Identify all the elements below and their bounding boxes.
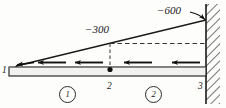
engineering-diagram: −300 −600 1 2 3 1 2	[0, 0, 226, 108]
node-2-dot	[107, 67, 112, 72]
element-2-label: 2	[145, 86, 162, 103]
diagram-canvas	[0, 0, 226, 108]
load-arrow-tip-node1	[17, 63, 34, 65]
load-wall-leader-line	[190, 12, 205, 20]
node-1-label: 1	[2, 66, 7, 76]
load-value-wall-label: −600	[157, 5, 181, 16]
bar-member	[9, 67, 206, 76]
element-1-label: 1	[59, 86, 76, 103]
fixed-wall	[206, 4, 220, 104]
construction-dashes	[110, 44, 206, 70]
load-value-mid-label: −300	[85, 24, 109, 35]
node-3-label: 3	[198, 82, 203, 92]
node-2-label: 2	[107, 82, 112, 92]
